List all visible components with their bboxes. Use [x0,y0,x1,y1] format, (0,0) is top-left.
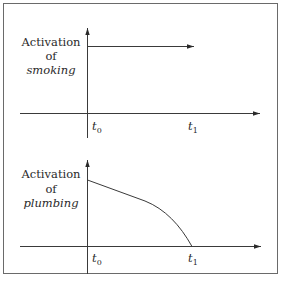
bottom-ylabel-line3: plumbing [23,196,78,210]
top-t0-label: t0 [92,119,102,135]
top-ylabel-line3: smoking [26,63,75,77]
bottom-t1-label: t1 [188,251,198,267]
bottom-ylabel-line2: of [45,182,57,196]
top-ylabel-line2: of [45,49,57,63]
plumbing-activation-curve [88,180,193,247]
top-panel: Activation of smoking t0 t1 [20,28,260,138]
bottom-panel: Activation of plumbing t0 t1 [20,160,261,274]
bottom-t0-label: t0 [92,251,102,267]
top-ylabel-line1: Activation [20,35,81,49]
activation-diagram: Activation of smoking t0 t1 Activation o… [0,0,282,281]
bottom-ylabel-line1: Activation [20,167,81,181]
top-t1-label: t1 [188,119,198,135]
